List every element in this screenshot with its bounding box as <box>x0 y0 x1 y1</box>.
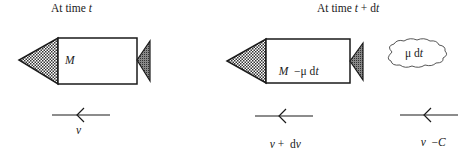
velocity-label-exhaust: v −C <box>415 125 446 148</box>
velocity-label-after: v + dv <box>264 127 301 148</box>
velocity-label-before: v <box>76 125 81 137</box>
mass-label-before: M <box>65 55 75 67</box>
heading-time-t-plus-dt: At time t + dt <box>317 3 379 15</box>
mass-loss-var: t <box>315 65 318 77</box>
heading-var: t <box>89 2 92 14</box>
rocket-nose-cone <box>227 39 266 83</box>
velocity-minus-text: − <box>426 136 438 148</box>
heading-suffix: + d <box>358 2 376 14</box>
exhaust-speed-var: C <box>438 136 446 148</box>
velocity-arrow-before <box>52 108 110 122</box>
mass-label-after: M −μ dt <box>273 54 319 77</box>
heading-time-t: At time t <box>51 3 92 15</box>
rocket-before <box>19 38 150 84</box>
rocket-tail-fin <box>350 43 363 80</box>
velocity-increment-text: + d <box>275 138 296 149</box>
rocket-tail-fin <box>137 41 150 81</box>
mass-var: M <box>279 65 289 77</box>
velocity-arrow-exhaust <box>400 108 458 122</box>
diagram-canvas <box>0 0 473 148</box>
exhaust-mass-label: μ dt <box>405 48 423 60</box>
velocity-var: v <box>76 124 81 136</box>
mass-loss-text: −μ d <box>288 65 315 77</box>
exhaust-mass-var: t <box>420 47 423 59</box>
mass-var: M <box>65 54 75 66</box>
heading-text: At time <box>317 2 355 14</box>
velocity-increment-var: v <box>296 138 301 149</box>
exhaust-mass-text: μ d <box>405 47 420 59</box>
velocity-arrow-after <box>255 109 313 123</box>
rocket-nose-cone <box>19 38 58 84</box>
heading-text: At time <box>51 2 89 14</box>
heading-var2: t <box>376 2 379 14</box>
